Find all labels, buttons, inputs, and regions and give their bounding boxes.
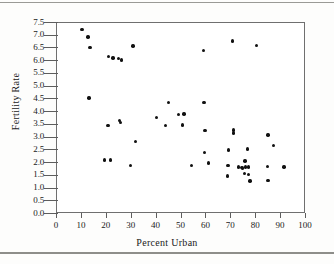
data-point bbox=[246, 147, 249, 150]
data-point bbox=[248, 179, 251, 182]
data-point bbox=[155, 116, 158, 119]
y-tick-label: 7.0 bbox=[14, 30, 44, 39]
y-tick-mark bbox=[44, 175, 58, 176]
x-tick-mark bbox=[305, 213, 306, 218]
y-tick-mark bbox=[44, 22, 58, 23]
data-point bbox=[131, 44, 134, 47]
data-point bbox=[109, 158, 112, 161]
data-point bbox=[231, 39, 234, 42]
data-point bbox=[164, 124, 167, 127]
x-tick-label: 20 bbox=[94, 221, 118, 230]
data-point bbox=[247, 165, 250, 168]
data-point bbox=[282, 165, 285, 168]
data-point bbox=[177, 113, 180, 116]
x-tick-mark bbox=[156, 213, 157, 218]
data-point bbox=[255, 44, 258, 47]
y-tick-label: 1.5 bbox=[14, 170, 44, 179]
x-tick-mark bbox=[131, 213, 132, 218]
data-point bbox=[107, 55, 110, 58]
data-points-layer bbox=[57, 23, 304, 212]
data-point bbox=[227, 148, 230, 151]
x-tick-label: 100 bbox=[293, 221, 317, 230]
bottom-divider-rule bbox=[0, 252, 334, 254]
scatter-plot-figure: 0.00.51.01.52.02.53.03.54.04.55.05.56.06… bbox=[0, 0, 334, 264]
data-point bbox=[266, 133, 269, 136]
plot-frame bbox=[56, 22, 305, 213]
y-tick-label: 0.5 bbox=[14, 196, 44, 205]
data-point bbox=[232, 131, 235, 134]
x-tick-label: 0 bbox=[44, 221, 68, 230]
x-tick-label: 10 bbox=[69, 221, 93, 230]
data-point bbox=[203, 129, 206, 132]
x-tick-label: 90 bbox=[268, 221, 292, 230]
y-tick-mark bbox=[44, 86, 58, 87]
data-point bbox=[120, 58, 123, 61]
data-point bbox=[134, 140, 137, 143]
data-point bbox=[266, 179, 269, 182]
x-tick-label: 30 bbox=[119, 221, 143, 230]
y-tick-mark bbox=[44, 111, 58, 112]
x-tick-label: 70 bbox=[218, 221, 242, 230]
y-axis-title: Fertility Rate bbox=[10, 42, 21, 162]
y-tick-mark bbox=[44, 149, 58, 150]
data-point bbox=[190, 164, 193, 167]
y-tick-mark bbox=[44, 162, 58, 163]
x-tick-mark bbox=[56, 213, 57, 218]
top-divider-rule bbox=[0, 2, 334, 3]
data-point bbox=[129, 164, 132, 167]
data-point bbox=[243, 172, 246, 175]
data-point bbox=[181, 123, 184, 126]
y-tick-label: 0.0 bbox=[14, 209, 44, 218]
x-tick-label: 50 bbox=[169, 221, 193, 230]
y-tick-mark bbox=[44, 124, 58, 125]
x-tick-label: 40 bbox=[144, 221, 168, 230]
data-point bbox=[182, 112, 185, 115]
x-tick-mark bbox=[230, 213, 231, 218]
x-tick-mark bbox=[255, 213, 256, 218]
x-tick-mark bbox=[106, 213, 107, 218]
y-tick-mark bbox=[44, 98, 58, 99]
data-point bbox=[202, 49, 205, 52]
data-point bbox=[207, 161, 210, 164]
y-tick-mark bbox=[44, 35, 58, 36]
y-tick-mark bbox=[44, 200, 58, 201]
x-tick-mark bbox=[81, 213, 82, 218]
data-point bbox=[88, 46, 91, 49]
y-tick-mark bbox=[44, 47, 58, 48]
data-point bbox=[119, 121, 122, 124]
data-point bbox=[272, 144, 275, 147]
data-point bbox=[167, 101, 170, 104]
data-point bbox=[106, 124, 109, 127]
data-point bbox=[247, 173, 250, 176]
x-tick-label: 60 bbox=[193, 221, 217, 230]
y-tick-mark bbox=[44, 60, 58, 61]
data-point bbox=[203, 151, 206, 154]
data-point bbox=[226, 174, 229, 177]
x-axis-title: Percent Urban bbox=[0, 237, 334, 248]
data-point bbox=[226, 164, 229, 167]
x-tick-mark bbox=[205, 213, 206, 218]
data-point bbox=[103, 158, 106, 161]
y-tick-label: 7.5 bbox=[14, 18, 44, 27]
y-tick-mark bbox=[44, 188, 58, 189]
data-point bbox=[243, 159, 246, 162]
x-tick-label: 80 bbox=[243, 221, 267, 230]
y-tick-mark bbox=[44, 137, 58, 138]
y-tick-mark bbox=[44, 73, 58, 74]
x-tick-mark bbox=[280, 213, 281, 218]
y-tick-label: 1.0 bbox=[14, 183, 44, 192]
data-point bbox=[202, 101, 205, 104]
data-point bbox=[266, 165, 269, 168]
data-point bbox=[111, 56, 114, 59]
data-point bbox=[87, 96, 90, 99]
data-point bbox=[86, 35, 89, 38]
data-point bbox=[80, 28, 83, 31]
x-tick-mark bbox=[181, 213, 182, 218]
